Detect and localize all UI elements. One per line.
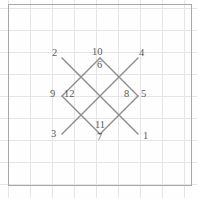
graph-paper-grid (0, 0, 197, 198)
point-label-3: 3 (51, 128, 56, 139)
figure-drawing (0, 0, 197, 198)
point-label-8: 8 (124, 88, 129, 99)
paper-border (9, 5, 192, 186)
point-label-1: 1 (143, 130, 148, 141)
point-label-4: 4 (139, 47, 144, 58)
point-label-2: 2 (52, 47, 57, 58)
point-label-9: 9 (50, 88, 55, 99)
point-label-10: 10 (92, 46, 103, 57)
point-label-12: 12 (64, 88, 75, 99)
figure-canvas: 123456789101112 (0, 0, 197, 198)
point-label-5: 5 (141, 88, 146, 99)
point-label-11: 11 (95, 119, 105, 130)
point-label-7: 7 (97, 131, 102, 142)
point-label-6: 6 (97, 59, 102, 70)
